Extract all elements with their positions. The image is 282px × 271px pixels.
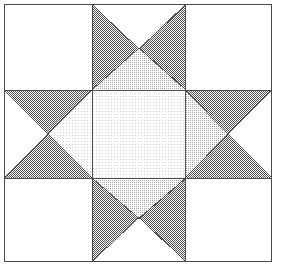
center-square-group (92, 90, 185, 178)
corner-bottom-left (5, 178, 93, 262)
corner-top-right (185, 5, 272, 91)
corner-top-left (5, 5, 93, 91)
quilt-block-canvas (0, 0, 282, 271)
center-square (92, 90, 185, 178)
quilt-block-figure (0, 0, 282, 271)
corner-bottom-right (185, 178, 272, 262)
